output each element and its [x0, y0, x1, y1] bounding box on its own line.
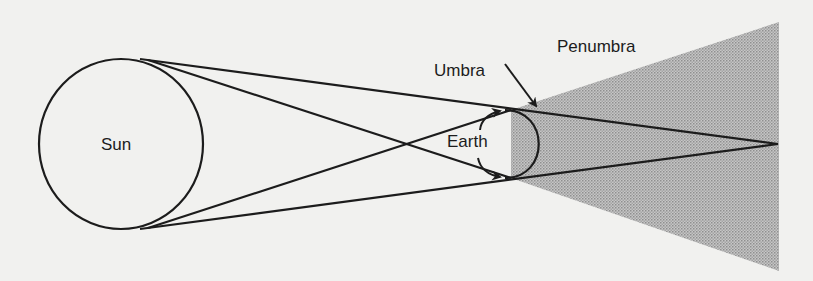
- umbra-pointer-arrow: [505, 64, 536, 106]
- eclipse-diagram: Sun Earth Umbra Penumbra: [0, 0, 813, 281]
- penumbra-label: Penumbra: [557, 38, 635, 55]
- umbra-label: Umbra: [434, 62, 485, 79]
- earth-label: Earth: [447, 133, 488, 150]
- sun-label: Sun: [101, 136, 131, 153]
- shadow-region: [511, 22, 779, 271]
